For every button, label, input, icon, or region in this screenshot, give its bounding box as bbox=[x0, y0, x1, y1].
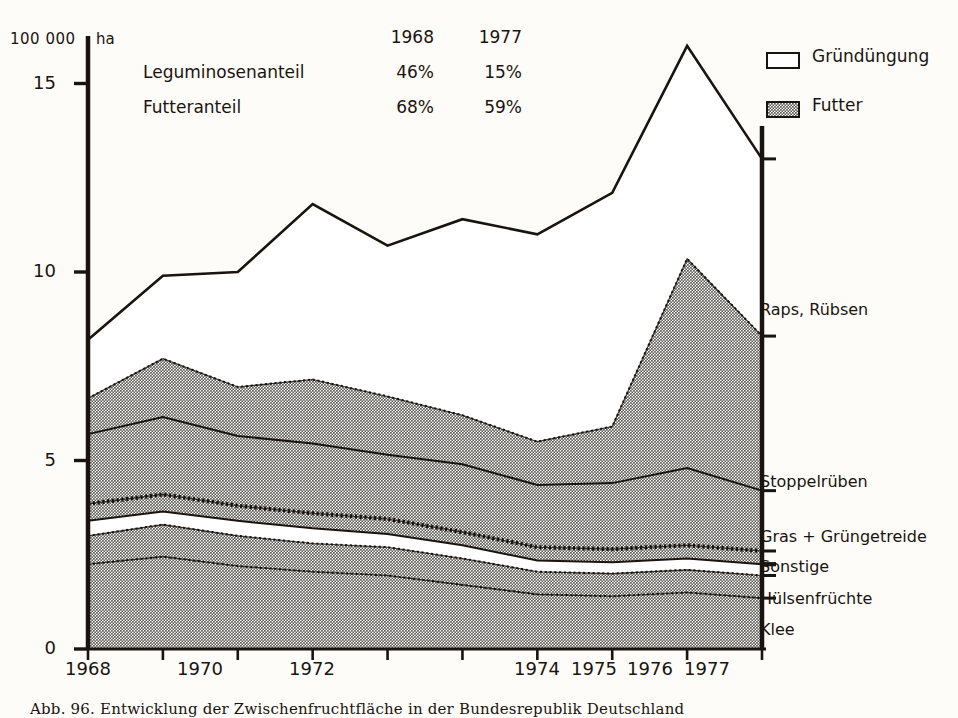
y-axis-unit-number: 100 000 bbox=[10, 30, 76, 48]
annotation-row-label-leguminosenanteil: Leguminosenanteil bbox=[143, 62, 305, 82]
x-tick-label-1977: 1977 bbox=[675, 658, 739, 679]
x-tick-label-1976: 1976 bbox=[618, 658, 682, 679]
annotation-row-label-futteranteil: Futteranteil bbox=[143, 97, 241, 117]
annotation-header-1977: 1977 bbox=[470, 27, 522, 47]
x-tick-label-1972: 1972 bbox=[280, 658, 344, 679]
legend-label-futter: Futter bbox=[812, 95, 862, 115]
x-tick-label-1975: 1975 bbox=[562, 658, 626, 679]
y-axis-unit-symbol: ha bbox=[96, 30, 115, 48]
legend-swatch-gruenduengung bbox=[766, 52, 800, 69]
chart-series-layers bbox=[88, 46, 762, 649]
annotation-futteranteil-1968: 68% bbox=[382, 97, 434, 117]
y-tick-label-5: 5 bbox=[12, 449, 56, 470]
x-tick-label-1974: 1974 bbox=[505, 658, 569, 679]
series-label-klee: Klee bbox=[760, 620, 795, 639]
annotation-header-1968: 1968 bbox=[382, 27, 434, 47]
annotation-futteranteil-1977: 59% bbox=[470, 97, 522, 117]
legend-label-gruenduengung: Gründüngung bbox=[812, 46, 929, 66]
series-label-huelsenfruechte: Hülsenfrüchte bbox=[760, 589, 872, 608]
annotation-leguminosenanteil-1968: 46% bbox=[382, 62, 434, 82]
x-tick-label-1970: 1970 bbox=[168, 658, 232, 679]
x-tick-label-1968: 1968 bbox=[56, 658, 120, 679]
series-label-sonstige: Sonstige bbox=[760, 557, 829, 576]
annotation-leguminosenanteil-1977: 15% bbox=[470, 62, 522, 82]
y-tick-label-15: 15 bbox=[12, 72, 56, 93]
series-label-raps-ruebsen: Raps, Rübsen bbox=[760, 300, 868, 319]
series-label-gras-gruengetreide: Gras + Grüngetreide bbox=[760, 527, 927, 546]
y-tick-label-10: 10 bbox=[12, 260, 56, 281]
figure-caption: Abb. 96. Entwicklung der Zwischenfruchtf… bbox=[30, 700, 684, 718]
legend-swatch-futter bbox=[766, 101, 800, 118]
series-label-stoppelrueben: Stoppelrüben bbox=[760, 472, 868, 491]
y-tick-label-0: 0 bbox=[12, 637, 56, 658]
